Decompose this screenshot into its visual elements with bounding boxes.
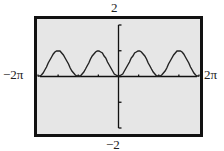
- graph-screen: [0, 0, 224, 151]
